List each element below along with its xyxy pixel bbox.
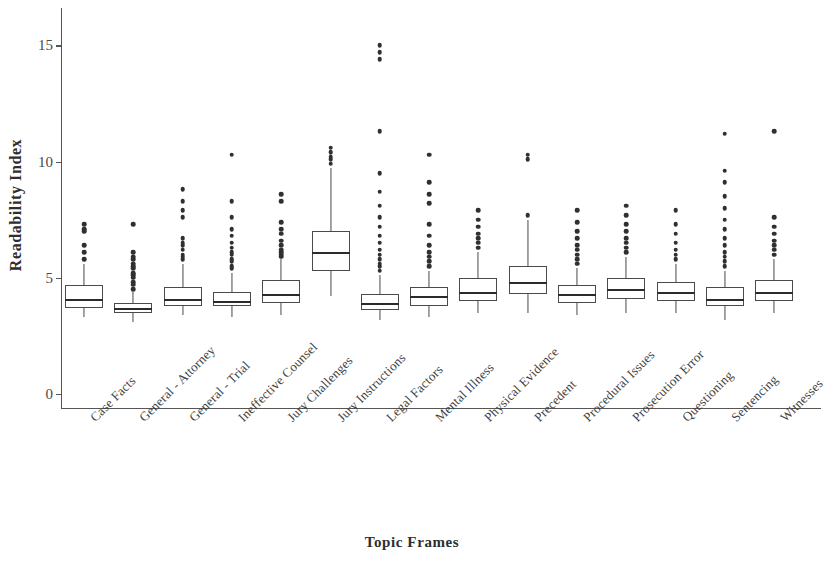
box-plot-group (410, 8, 448, 408)
outlier-point (279, 231, 284, 236)
median-line (164, 299, 202, 301)
outlier-point (723, 169, 728, 174)
outlier-point (328, 162, 333, 167)
outlier-point (723, 217, 728, 222)
box-plot-group (361, 8, 399, 408)
upper-whisker (626, 257, 627, 278)
outlier-point (624, 245, 629, 250)
outlier-point (230, 245, 235, 250)
outlier-point (328, 145, 333, 150)
outlier-point (378, 248, 383, 253)
outlier-point (476, 245, 481, 250)
outlier-point (575, 257, 580, 262)
y-tick-label: 0 (23, 386, 53, 403)
outlier-point (427, 243, 432, 248)
outlier-point (180, 241, 185, 246)
upper-whisker (281, 259, 282, 280)
outlier-point (723, 131, 728, 136)
outlier-point (723, 243, 728, 248)
outlier-point (180, 199, 185, 204)
lower-whisker (231, 306, 232, 318)
upper-whisker (478, 252, 479, 278)
outlier-point (476, 236, 481, 241)
outlier-point (427, 201, 432, 206)
outlier-point (723, 250, 728, 255)
outlier-point (772, 243, 777, 248)
box-iqr (607, 278, 645, 299)
upper-whisker (231, 273, 232, 292)
outlier-point (180, 236, 185, 241)
outlier-point (575, 252, 580, 257)
outlier-point (673, 252, 678, 257)
upper-whisker (724, 271, 725, 287)
median-line (410, 296, 448, 298)
box-plot-group (657, 8, 695, 408)
outlier-point (624, 222, 629, 227)
outlier-point (378, 234, 383, 239)
box-plot-group (459, 8, 497, 408)
outlier-point (230, 257, 235, 262)
outlier-point (427, 234, 432, 239)
outlier-point (723, 264, 728, 269)
median-line (558, 294, 596, 296)
outlier-point (279, 192, 284, 197)
box-iqr (262, 280, 300, 303)
box-iqr (213, 292, 251, 306)
outlier-point (673, 231, 678, 236)
outlier-point (575, 262, 580, 267)
lower-whisker (83, 308, 84, 317)
outlier-point (427, 255, 432, 260)
outlier-point (575, 243, 580, 248)
outlier-point (575, 248, 580, 253)
median-line (706, 299, 744, 301)
outlier-point (525, 152, 530, 157)
outlier-point (180, 208, 185, 213)
upper-whisker (576, 268, 577, 284)
boxes-layer (61, 8, 821, 408)
outlier-point (131, 222, 136, 227)
outlier-point (82, 257, 87, 262)
box-plot-group (755, 8, 793, 408)
box-plot-group (213, 8, 251, 408)
lower-whisker (182, 306, 183, 315)
outlier-point (673, 222, 678, 227)
median-line (312, 252, 350, 254)
outlier-point (378, 224, 383, 229)
upper-whisker (182, 264, 183, 287)
outlier-point (230, 234, 235, 239)
outlier-point (279, 248, 284, 253)
outlier-point (772, 224, 777, 229)
outlier-point (378, 252, 383, 257)
outlier-point (378, 241, 383, 246)
outlier-point (180, 215, 185, 220)
outlier-point (772, 248, 777, 253)
outlier-point (180, 187, 185, 192)
box-iqr (65, 285, 103, 308)
lower-whisker (774, 301, 775, 313)
outlier-point (723, 259, 728, 264)
outlier-point (575, 220, 580, 225)
outlier-point (131, 280, 136, 285)
outlier-point (723, 236, 728, 241)
outlier-point (279, 220, 284, 225)
x-axis-title: Topic Frames (0, 534, 824, 551)
upper-whisker (330, 168, 331, 231)
outlier-point (476, 241, 481, 246)
box-iqr (459, 278, 497, 301)
outlier-point (427, 152, 432, 157)
outlier-point (378, 129, 383, 134)
outlier-point (180, 252, 185, 257)
box-iqr (312, 231, 350, 271)
outlier-point (378, 268, 383, 273)
outlier-point (624, 203, 629, 208)
lower-whisker (626, 299, 627, 313)
outlier-point (378, 50, 383, 55)
lower-whisker (330, 271, 331, 297)
outlier-point (624, 250, 629, 255)
outlier-point (624, 236, 629, 241)
box-plot-group (509, 8, 547, 408)
outlier-point (723, 255, 728, 260)
outlier-point (723, 194, 728, 199)
outlier-point (723, 227, 728, 232)
box-iqr (164, 287, 202, 306)
